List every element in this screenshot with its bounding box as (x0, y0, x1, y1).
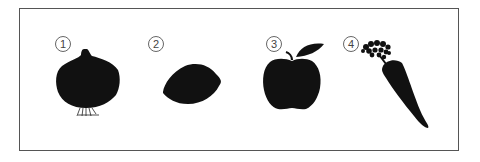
carrot-icon (0, 0, 480, 162)
